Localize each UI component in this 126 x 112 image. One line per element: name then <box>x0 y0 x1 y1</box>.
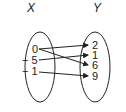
set-y-label: Y <box>93 1 102 15</box>
domain-value-2: − 1 <box>22 65 38 77</box>
set-x-label: X <box>26 1 36 15</box>
range-value-3: 9 <box>92 70 98 82</box>
mapping-diagram: X Y 0 − 5 − 1 2 1 6 9 <box>0 0 126 112</box>
arrow-0-to-2 <box>39 45 88 49</box>
